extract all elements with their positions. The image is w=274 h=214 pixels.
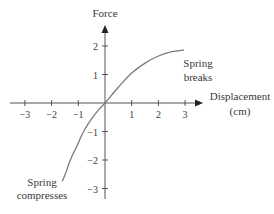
y-tick-label: −1 [87, 127, 98, 138]
y-axis-title: Force [92, 7, 117, 19]
y-tick-label: 2 [93, 41, 98, 52]
y-tick-label: 1 [93, 70, 98, 81]
annotation-spring-compresses-line1: Spring [27, 176, 57, 188]
x-axis-title-line2: (cm) [230, 105, 251, 118]
annotation-spring-compresses-line2: compresses [17, 189, 68, 201]
x-tick-label: −1 [73, 109, 84, 120]
y-tick-label: −2 [87, 155, 98, 166]
x-tick-label: −2 [46, 109, 57, 120]
x-tick-label: 1 [129, 109, 134, 120]
x-tick-label: 3 [183, 109, 188, 120]
y-tick-label: −3 [87, 184, 98, 195]
annotation-spring-breaks-line1: Spring [183, 57, 213, 69]
x-tick-label: 2 [156, 109, 161, 120]
y-axis-arrow-icon [102, 25, 109, 33]
x-tick-label: −3 [20, 109, 31, 120]
force-displacement-chart: −3−2−1123 21−1−2−3 Force Displacement (c… [0, 0, 274, 214]
x-axis-title-line1: Displacement [210, 90, 270, 102]
x-axis-arrow-icon [195, 100, 203, 107]
annotation-spring-breaks-line2: breaks [184, 71, 213, 83]
